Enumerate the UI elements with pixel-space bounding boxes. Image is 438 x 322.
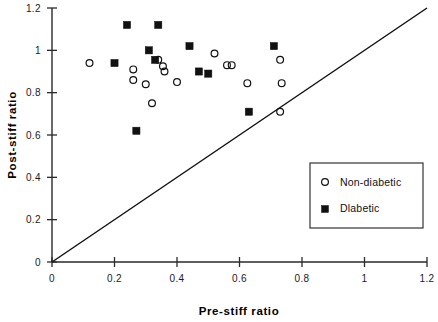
chart-canvas: 00.20.40.60.811.2 00.20.40.60.811.2 Pre-… (0, 0, 438, 322)
data-point-non-diabetic (278, 80, 285, 87)
data-point-diabetic (133, 127, 140, 134)
data-point-non-diabetic (228, 62, 235, 69)
data-point-diabetic (152, 56, 159, 63)
legend-box (310, 163, 423, 228)
x-tick-label: 1 (362, 273, 368, 284)
data-point-diabetic (123, 21, 130, 28)
data-point-diabetic (186, 43, 193, 50)
data-point-non-diabetic (130, 77, 137, 84)
y-tick-label: 1 (35, 45, 41, 56)
filled-square-icon (322, 206, 329, 213)
x-tick-label: 0.4 (169, 273, 184, 284)
scatter-plot-figure: 00.20.40.60.811.2 00.20.40.60.811.2 Pre-… (0, 0, 438, 322)
y-tick-label: 0.2 (26, 214, 41, 225)
data-point-diabetic (205, 70, 212, 77)
data-point-non-diabetic (277, 108, 284, 115)
data-point-diabetic (245, 108, 252, 115)
legend-label-non-diabetic: Non-diabetic (340, 176, 401, 188)
data-point-non-diabetic (277, 56, 284, 63)
data-point-non-diabetic (130, 66, 137, 73)
data-point-diabetic (145, 47, 152, 54)
data-point-diabetic (155, 21, 162, 28)
legend-label-diabetic: Dlabetic (340, 202, 380, 214)
data-point-diabetic (195, 68, 202, 75)
x-axis-ticks: 00.20.40.60.811.2 (49, 257, 435, 284)
data-point-non-diabetic (86, 60, 93, 67)
x-tick-label: 1.2 (419, 273, 434, 284)
x-tick-label: 0.2 (107, 273, 122, 284)
data-point-diabetic (111, 59, 118, 66)
y-tick-label: 0.6 (26, 130, 41, 141)
y-tick-label: 0.4 (26, 172, 41, 183)
y-axis-title: Post-stiff ratio (6, 91, 18, 179)
y-tick-label: 0.8 (26, 87, 41, 98)
legend: Non-diabetic Dlabetic (310, 163, 423, 228)
x-tick-label: 0.6 (232, 273, 247, 284)
data-point-non-diabetic (174, 79, 181, 86)
y-tick-label: 0 (35, 257, 41, 268)
data-point-non-diabetic (149, 100, 156, 107)
data-point-diabetic (270, 43, 277, 50)
y-tick-label: 1.2 (26, 3, 41, 14)
data-point-non-diabetic (211, 50, 218, 57)
x-tick-label: 0.8 (294, 273, 309, 284)
data-point-non-diabetic (244, 80, 251, 87)
data-point-non-diabetic (142, 81, 149, 88)
x-axis-title: Pre-stiff ratio (199, 305, 280, 317)
x-tick-label: 0 (49, 273, 55, 284)
